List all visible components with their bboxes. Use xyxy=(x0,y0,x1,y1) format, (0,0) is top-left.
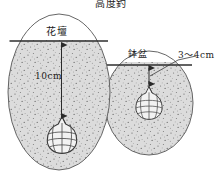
left-bed-label: 花壇 xyxy=(46,27,67,37)
right-pot-label: 鉢盆 xyxy=(128,50,147,59)
left-depth-label: 10cm xyxy=(35,72,62,81)
right-planting-group xyxy=(105,51,196,155)
left-planting-group xyxy=(8,14,110,170)
planting-depth-diagram xyxy=(0,0,222,180)
right-depth-label: 3〜4cm xyxy=(178,51,215,60)
figure-title: 高度釣 xyxy=(0,0,222,9)
